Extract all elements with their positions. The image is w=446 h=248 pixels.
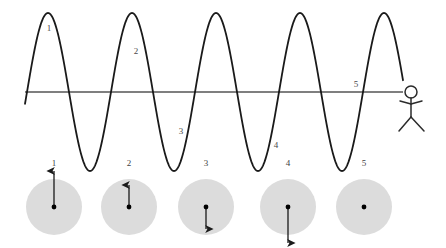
particle-label-2: 2 xyxy=(127,158,132,168)
observer-head-icon xyxy=(405,86,417,98)
wave-label-5: 5 xyxy=(354,79,359,89)
particle-dot-2 xyxy=(127,205,132,210)
particle-snapshot: 1 xyxy=(26,158,82,235)
wave-label-1: 1 xyxy=(47,23,52,33)
particle-label-3: 3 xyxy=(204,158,209,168)
wave-label-4: 4 xyxy=(274,140,279,150)
particle-label-5: 5 xyxy=(362,158,367,168)
wave-label-3: 3 xyxy=(179,126,184,136)
particle-dot-3 xyxy=(204,205,209,210)
particle-dot-5 xyxy=(362,205,367,210)
observer-leg-right xyxy=(411,117,424,131)
particle-snapshot: 2 xyxy=(101,158,157,235)
particle-dot-4 xyxy=(286,205,291,210)
wave-diagram-figure: 1 2 3 4 5 12345 xyxy=(0,0,446,248)
particle-snapshot: 4 xyxy=(260,158,316,243)
particle-dot-1 xyxy=(52,205,57,210)
observer-arm-right xyxy=(411,101,422,104)
particle-snapshot: 3 xyxy=(178,158,234,235)
particle-label-4: 4 xyxy=(286,158,291,168)
observer-leg-left xyxy=(399,117,411,131)
wave-label-2: 2 xyxy=(134,46,139,56)
particle-snapshots-row: 12345 xyxy=(26,158,392,243)
wave-diagram-canvas: 1 2 3 4 5 12345 xyxy=(0,0,446,248)
particle-label-1: 1 xyxy=(52,158,57,168)
observer-arm-left xyxy=(400,101,411,104)
stick-figure-observer xyxy=(399,86,424,131)
